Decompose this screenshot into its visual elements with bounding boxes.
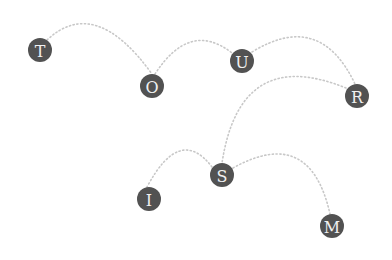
arc-s-m	[233, 154, 330, 214]
node-letter: O	[145, 78, 158, 97]
arc-t-o	[47, 24, 152, 74]
node-r: R	[345, 84, 369, 108]
node-group: TOURSIM	[28, 38, 369, 238]
node-o: O	[140, 74, 164, 98]
node-s: S	[210, 163, 234, 187]
arc-r-s	[222, 77, 346, 163]
node-i: I	[137, 187, 161, 211]
diagram-svg: TOURSIM	[0, 0, 392, 260]
diagram-canvas: TOURSIM	[0, 0, 392, 260]
node-letter: S	[217, 167, 228, 186]
node-letter: R	[351, 88, 364, 107]
node-letter: U	[235, 53, 248, 72]
arc-group	[47, 24, 355, 214]
node-t: T	[28, 38, 52, 62]
node-letter: T	[35, 42, 46, 61]
arc-o-u	[155, 40, 232, 74]
node-letter: M	[324, 218, 340, 237]
node-m: M	[320, 214, 344, 238]
arc-s-i	[147, 150, 212, 187]
node-letter: I	[146, 191, 152, 210]
arc-u-r	[252, 37, 355, 84]
node-u: U	[230, 49, 254, 73]
